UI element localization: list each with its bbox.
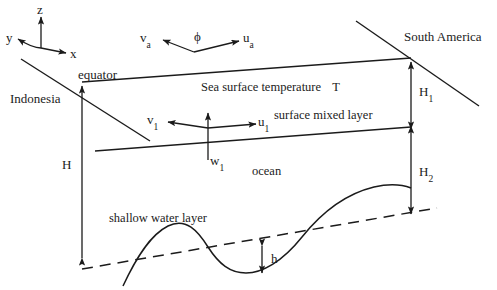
ocean-layer-diagram: z y x va ua ϕ Indonesia South America eq… — [0, 0, 497, 290]
axis-x-arrow — [41, 48, 66, 53]
label-equator: equator — [78, 68, 117, 81]
current-label-u1-sub: 1 — [265, 124, 270, 134]
label-indonesia: Indonesia — [10, 92, 61, 105]
wind-label-ua-sub: a — [250, 40, 254, 50]
depth-label-H2-base: H — [419, 164, 428, 179]
current-label-v1-base: v — [147, 112, 154, 127]
current-u1-arrow — [208, 124, 256, 128]
axis-y-arrow — [18, 39, 41, 48]
depth-label-H1-sub: 1 — [428, 94, 433, 104]
label-sea-surface-temperature: Sea surface temperature T — [201, 81, 340, 94]
wind-va-arrow — [163, 40, 194, 52]
axis-label-x: x — [70, 47, 77, 60]
depth-label-H1-base: H — [419, 84, 428, 99]
wind-label-va-base: v — [140, 30, 147, 45]
label-ocean: ocean — [252, 165, 281, 178]
current-label-v1: v1 — [147, 113, 158, 130]
current-v1-arrow — [168, 122, 208, 128]
wind-angle-label-phi: ϕ — [194, 30, 201, 43]
coordinate-axes — [18, 17, 66, 53]
axis-label-y: y — [6, 31, 13, 44]
wind-label-va-sub: a — [147, 40, 151, 50]
wind-label-va: va — [140, 31, 151, 48]
label-south-america: South America — [404, 30, 482, 43]
wind-label-ua-base: u — [243, 30, 250, 45]
displacement-label-h: h — [271, 252, 278, 265]
label-shallow-water-layer: shallow water layer — [109, 212, 207, 225]
current-label-w1-sub: 1 — [219, 163, 224, 173]
depth-label-H2-sub: 2 — [428, 174, 433, 184]
current-label-w1-base: w — [210, 153, 219, 168]
sea-surface-line — [82, 58, 411, 82]
depth-label-H1: H1 — [419, 85, 433, 102]
axis-label-z: z — [37, 3, 43, 16]
label-surface-mixed-layer: surface mixed layer — [274, 109, 373, 122]
depth-label-H: H — [62, 158, 71, 171]
current-label-w1: w1 — [210, 154, 224, 171]
current-label-u1: u1 — [258, 115, 269, 132]
wind-vectors — [163, 40, 239, 52]
thermocline-wave-curve — [123, 185, 411, 286]
label-sst-variable: T — [332, 80, 340, 94]
depth-label-H2: H2 — [419, 165, 433, 182]
wind-label-ua: ua — [243, 31, 254, 48]
label-sst-text: Sea surface temperature — [201, 80, 321, 94]
mixed-layer-base-line — [95, 127, 411, 151]
current-label-v1-sub: 1 — [154, 122, 159, 132]
current-label-u1-base: u — [258, 114, 265, 129]
